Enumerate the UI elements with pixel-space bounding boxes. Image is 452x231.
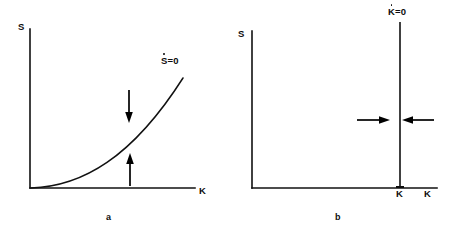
s-dot-symbol: S	[161, 56, 168, 66]
panel-a-y-axis-label: S	[18, 22, 25, 32]
panel-a-graphics	[30, 29, 195, 188]
panel-a-down-arrow	[125, 90, 133, 123]
k-dot-nullcline-label: K=0	[388, 7, 406, 17]
panel-a-x-axis-label: K	[199, 186, 206, 196]
k-bar-symbol: K	[396, 189, 403, 199]
panel-b-y-axis-label: S	[238, 29, 245, 39]
panel-a-up-arrow	[126, 153, 134, 186]
s-dot-nullcline-label: S=0	[161, 56, 179, 66]
panel-b-graphics	[252, 22, 437, 188]
k-dot-equals-zero: =0	[395, 6, 406, 17]
k-steady-state-label: K	[396, 189, 403, 199]
k-dot-symbol: K	[388, 7, 395, 17]
s-dot-nullcline-curve	[31, 78, 183, 188]
panel-a-caption: a	[106, 213, 111, 222]
s-dot-equals-zero: =0	[168, 55, 179, 66]
panel-b-x-axis-label: K	[424, 189, 431, 199]
panel-b-caption: b	[335, 213, 341, 222]
panel-b-right-arrow	[357, 116, 390, 124]
phase-diagram-figure: S K S=0 a S K K=0 K b	[0, 0, 452, 231]
figure-canvas	[0, 0, 452, 231]
panel-b-left-arrow	[402, 116, 434, 124]
